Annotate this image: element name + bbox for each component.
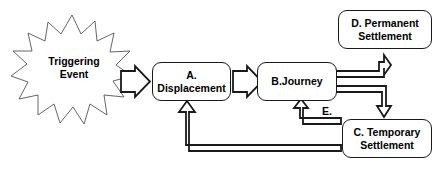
arrow-c-to-a bbox=[179, 101, 341, 151]
box-b-journey[interactable]: B.Journey bbox=[257, 62, 337, 101]
box-a-label: A. Displacement bbox=[153, 69, 230, 94]
box-d-permanent-settlement[interactable]: D. Permanent Settlement bbox=[338, 10, 432, 49]
box-c-temporary-settlement[interactable]: C. Temporary Settlement bbox=[342, 119, 432, 158]
box-d-label: D. Permanent Settlement bbox=[348, 17, 422, 42]
trigger-event-label: Triggering Event bbox=[34, 55, 114, 80]
box-a-displacement[interactable]: A. Displacement bbox=[152, 62, 231, 101]
box-c-label: C. Temporary Settlement bbox=[351, 126, 424, 151]
edge-label-e: E. bbox=[322, 105, 332, 117]
diagram-canvas: Triggering Event A. Displacement B.Journ… bbox=[0, 0, 442, 173]
arrow-c-to-b bbox=[294, 99, 341, 124]
arrow-b-to-d bbox=[336, 55, 391, 77]
arrow-trigger-to-a bbox=[121, 66, 150, 97]
arrow-b-to-c bbox=[336, 86, 391, 117]
box-b-label: B.Journey bbox=[268, 75, 325, 88]
